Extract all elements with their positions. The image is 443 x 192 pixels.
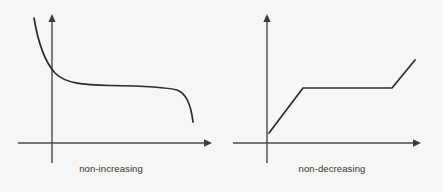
left-curve-non-increasing (34, 18, 193, 122)
right-y-axis-arrowhead (263, 14, 270, 22)
monotonic-functions-figure: non-increasing non-decreasing (0, 0, 443, 192)
caption-non-increasing: non-increasing (0, 163, 222, 174)
left-y-axis-arrowhead (48, 14, 55, 22)
left-x-axis-arrowhead (204, 139, 212, 147)
panel-right-non-decreasing (233, 14, 421, 163)
right-x-axis-arrowhead (413, 139, 421, 147)
panel-left-non-increasing (18, 14, 212, 163)
caption-non-decreasing: non-decreasing (221, 163, 443, 174)
right-curve-non-decreasing (269, 60, 415, 133)
